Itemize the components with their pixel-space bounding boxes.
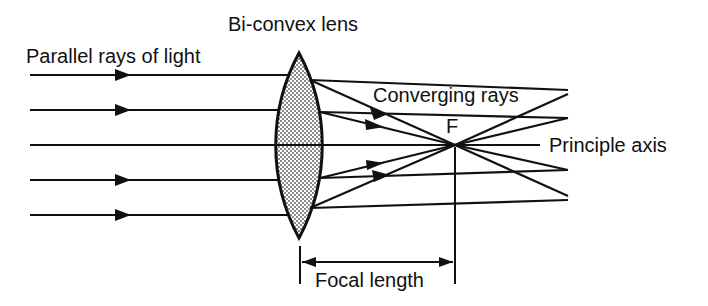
- arrow-right-icon: [439, 257, 453, 267]
- focus-label: F: [446, 116, 458, 136]
- arrow-icon: [115, 209, 131, 221]
- arrow-icon: [372, 170, 390, 182]
- arrow-icon: [366, 160, 384, 170]
- parallel-rays-label: Parallel rays of light: [26, 46, 201, 66]
- lens-diagram: Bi-convex lens Parallel rays of light Co…: [0, 0, 708, 306]
- focal-length-dimension: [300, 147, 455, 284]
- arrow-icon: [365, 119, 384, 130]
- arrow-left-icon: [302, 257, 316, 267]
- arrow-icon: [115, 174, 131, 186]
- arrow-icon: [115, 69, 131, 81]
- focal-length-label: Focal length: [315, 270, 424, 290]
- principal-axis-label: Principle axis: [549, 135, 667, 155]
- lens-label: Bi-convex lens: [228, 14, 358, 34]
- converging-rays-label: Converging rays: [373, 85, 519, 105]
- arrow-icon: [115, 104, 131, 116]
